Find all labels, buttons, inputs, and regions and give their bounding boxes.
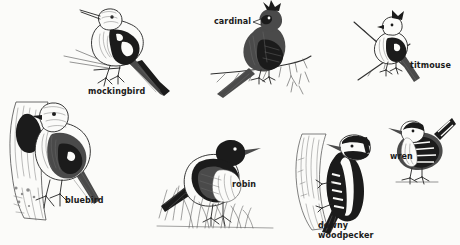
bird-illustration-mockingbird: mockingbird [60, 4, 190, 104]
caption-bluebird: bluebird [65, 196, 104, 206]
caption-cardinal: cardinal [214, 17, 251, 27]
caption-downy-woodpecker: downy woodpecker [318, 221, 373, 240]
bird-illustration-downy-woodpecker: downy woodpecker [288, 130, 388, 245]
caption-titmouse: titmouse [410, 61, 451, 71]
titmouse-drawing [348, 8, 448, 93]
bluebird-drawing [2, 96, 122, 226]
bird-illustration-wren: wren [386, 112, 460, 187]
bird-illustration-cardinal: cardinal [205, 2, 325, 102]
bird-illustration-plate: mockingbird [0, 0, 460, 245]
wren-drawing [386, 112, 460, 187]
robin-drawing [155, 136, 275, 236]
bird-illustration-robin: robin [155, 136, 275, 236]
bird-illustration-titmouse: titmouse [348, 8, 448, 93]
bird-illustration-bluebird: bluebird [2, 96, 122, 226]
caption-robin: robin [232, 180, 256, 190]
caption-wren: wren [390, 152, 413, 162]
